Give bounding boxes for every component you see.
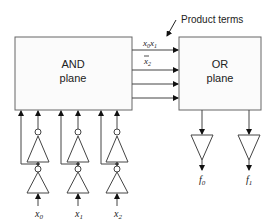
input-label-x0: x0 [34, 208, 43, 221]
output-label-f1: f1 [246, 174, 252, 187]
product-term-label-x2-bar: x2 [143, 56, 151, 67]
or-plane-label-1: OR [212, 58, 229, 70]
and-plane-label-2: plane [60, 72, 87, 84]
product-term-label-x0x1: x0x1 [142, 38, 157, 49]
or-plane-label-2: plane [207, 72, 234, 84]
input-label-x1: x1 [74, 208, 83, 221]
output-buffer-f0 [191, 110, 213, 170]
and-plane: AND plane [15, 37, 132, 110]
input-buffer-x2 [101, 111, 128, 206]
output-label-f0: f0 [199, 174, 206, 187]
input-label-x2: x2 [113, 208, 122, 221]
input-buffer-x1 [61, 111, 89, 206]
annotation-pointer-arrow [167, 20, 176, 36]
product-terms-annotation: Product terms [181, 14, 243, 25]
input-buffer-x0 [21, 111, 49, 206]
and-plane-label-1: AND [61, 58, 84, 70]
or-plane: OR plane [179, 37, 261, 110]
pla-diagram: AND plane OR plane x0x1 x2 Product terms [0, 0, 274, 223]
svg-text:x2: x2 [143, 56, 151, 67]
output-buffer-f1 [238, 110, 260, 170]
product-term-lines [132, 50, 178, 98]
